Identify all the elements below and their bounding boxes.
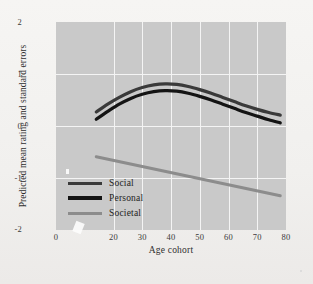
x-tick-label: 80 (275, 232, 297, 242)
x-axis-title: Age cohort (56, 245, 286, 255)
scan-artifact (300, 270, 302, 272)
x-tick-label: 70 (246, 232, 268, 242)
legend-item-personal: Personal (68, 193, 143, 203)
x-tick-label: 20 (103, 232, 125, 242)
x-tick-label: 30 (131, 232, 153, 242)
x-tick-label: 50 (189, 232, 211, 242)
scan-artifact (66, 169, 69, 174)
figure-canvas: 2 1 0 -1 -2 Predicted mean rating and st… (0, 0, 313, 284)
x-tick-label: 0 (45, 232, 67, 242)
legend-item-social: Social (68, 178, 143, 188)
legend-label-societal: Societal (109, 208, 141, 218)
legend-swatch-social (68, 182, 102, 185)
legend-swatch-personal (68, 196, 102, 200)
y-axis-title: Predicted mean rating and standard error… (18, 22, 32, 230)
legend-label-personal: Personal (109, 193, 143, 203)
series-line-social (96, 84, 280, 115)
legend-label-social: Social (109, 178, 134, 188)
x-tick-label: 40 (160, 232, 182, 242)
plot-area: Social Personal Societal (56, 22, 286, 230)
legend: Social Personal Societal (68, 178, 143, 218)
legend-item-societal: Societal (68, 208, 143, 218)
legend-swatch-societal (68, 212, 102, 215)
x-tick-label: 60 (218, 232, 240, 242)
